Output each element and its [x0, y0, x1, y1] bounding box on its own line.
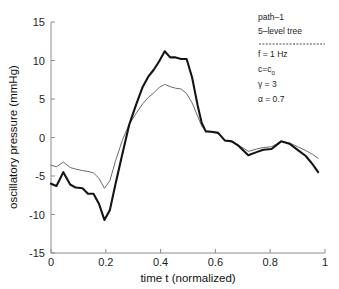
- chart-canvas: 15 10 5 0 -5 -10 -15 0 0.2 0.4 0.6 0.8 1…: [0, 0, 339, 289]
- x-tick-label: 0.6: [208, 256, 223, 268]
- x-tick-label: 0.8: [263, 256, 278, 268]
- x-tick-label: 0.4: [153, 256, 168, 268]
- annotation-alpha: α = 0.7: [258, 94, 285, 104]
- y-tick-label: -15: [29, 247, 45, 259]
- legend-annotations: path–1 5–level tree f = 1 Hz c=c0 γ = 3 …: [258, 12, 325, 104]
- y-tick-label: 5: [39, 93, 45, 105]
- annotation-wave-speed: c=c0: [258, 64, 275, 76]
- y-tick-marks: [51, 22, 55, 253]
- annotation-tree-level: 5–level tree: [258, 26, 302, 36]
- annotation-gamma: γ = 3: [258, 79, 277, 89]
- x-tick-marks: [51, 249, 325, 253]
- x-axis-title: time t (normalized): [140, 272, 235, 284]
- x-tick-label: 0: [48, 256, 54, 268]
- x-tick-labels: 0 0.2 0.4 0.6 0.8 1: [48, 256, 328, 268]
- annotation-path: path–1: [258, 12, 284, 22]
- y-axis-title: oscillatory pressure (mmHg): [7, 65, 19, 209]
- data-series-group: [51, 51, 318, 220]
- y-tick-label: 0: [39, 132, 45, 144]
- series-thick-line: [51, 51, 318, 220]
- oscillatory-pressure-chart: 15 10 5 0 -5 -10 -15 0 0.2 0.4 0.6 0.8 1…: [0, 0, 339, 289]
- y-tick-label: -10: [29, 209, 45, 221]
- y-tick-labels: 15 10 5 0 -5 -10 -15: [29, 16, 45, 259]
- x-tick-label: 0.2: [98, 256, 113, 268]
- y-tick-label: 10: [33, 55, 45, 67]
- y-tick-label: 15: [33, 16, 45, 28]
- x-tick-label: 1: [322, 256, 328, 268]
- annotation-wave-speed-main: c=c: [258, 64, 272, 74]
- y-tick-label: -5: [35, 170, 45, 182]
- annotation-frequency: f = 1 Hz: [258, 49, 288, 59]
- annotation-wave-speed-subscript: 0: [271, 69, 275, 76]
